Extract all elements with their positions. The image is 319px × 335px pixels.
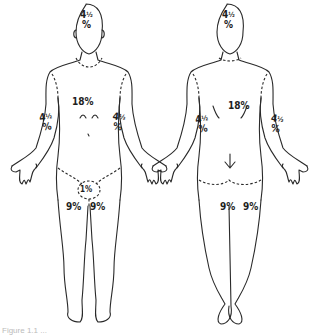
anterior-right-leg-label: 9% [66, 202, 81, 212]
posterior-trunk-label: 18% [228, 101, 250, 111]
anterior-head-label: 4½ % [80, 10, 93, 30]
posterior-head-label: 4½ % [222, 10, 235, 30]
figure-caption: Figure 1.1 ... [2, 326, 47, 335]
anterior-figure [11, 4, 167, 322]
anterior-trunk-label: 18% [72, 97, 94, 107]
anterior-genitals-label: 1% [80, 185, 92, 195]
posterior-left-arm-label: 4½ % [195, 113, 210, 135]
posterior-right-leg-label: 9% [243, 202, 258, 212]
posterior-left-leg-label: 9% [220, 202, 235, 212]
anterior-left-leg-label: 9% [90, 202, 105, 212]
anterior-left-arm-label: 4½ % [111, 111, 126, 133]
anterior-right-arm-label: 4½ % [39, 111, 54, 133]
posterior-figure [152, 4, 308, 324]
